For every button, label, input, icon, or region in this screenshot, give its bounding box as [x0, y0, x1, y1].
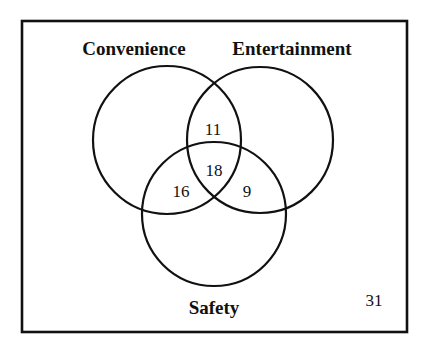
safety-label: Safety — [189, 297, 240, 318]
region-convenience-safety: 16 — [173, 182, 190, 201]
region-all-three: 18 — [206, 161, 223, 180]
region-convenience-entertainment: 11 — [205, 120, 221, 139]
region-outside-all: 31 — [366, 291, 383, 310]
convenience-label: Convenience — [82, 38, 185, 59]
region-entertainment-safety: 9 — [243, 182, 252, 201]
entertainment-label: Entertainment — [232, 38, 352, 59]
venn-diagram: Convenience Entertainment Safety 11 18 1… — [0, 0, 425, 349]
